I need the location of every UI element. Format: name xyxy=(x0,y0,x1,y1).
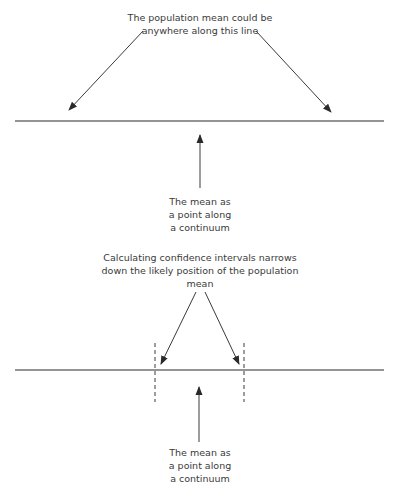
mean-label-line: The mean as xyxy=(140,195,260,208)
diagram-canvas xyxy=(0,0,394,490)
caption-line: down the likely position of the populati… xyxy=(92,264,308,277)
bottom-caption: Calculating confidence intervals narrows… xyxy=(92,251,308,290)
top-mean-label: The mean as a point along a continuum xyxy=(140,195,260,234)
arrow-left-top xyxy=(69,31,143,110)
caption-line: The population mean could be xyxy=(97,11,303,24)
mean-label-line: a continuum xyxy=(140,472,260,485)
mean-label-line: a continuum xyxy=(140,221,260,234)
mean-label-line: a point along xyxy=(140,459,260,472)
caption-line: Calculating confidence intervals narrows xyxy=(92,251,308,264)
arrow-right-top xyxy=(256,31,331,112)
arrow-right-bottom xyxy=(205,292,239,364)
mean-label-line: a point along xyxy=(140,208,260,221)
caption-line: mean xyxy=(92,277,308,290)
mean-label-line: The mean as xyxy=(140,446,260,459)
top-caption: The population mean could be anywhere al… xyxy=(97,11,303,37)
caption-line: anywhere along this line xyxy=(97,24,303,37)
bottom-mean-label: The mean as a point along a continuum xyxy=(140,446,260,485)
arrow-left-bottom xyxy=(161,292,196,364)
